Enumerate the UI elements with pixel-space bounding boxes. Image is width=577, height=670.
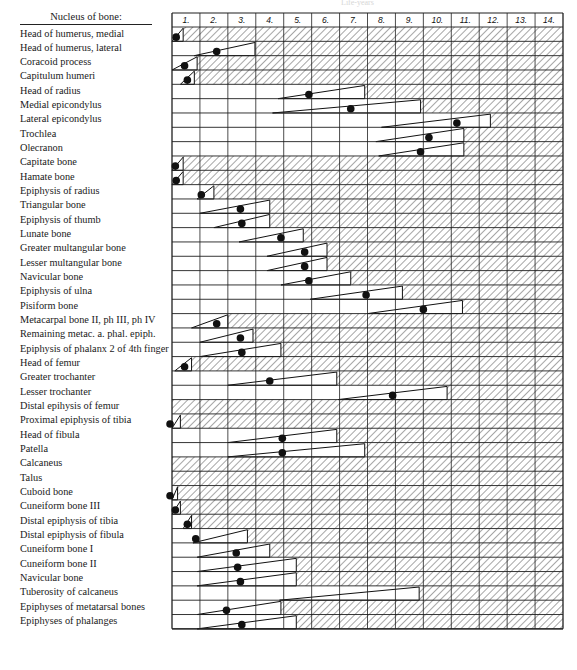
present-hatch: [178, 486, 563, 500]
mean-dot: [234, 564, 242, 572]
present-hatch: [327, 256, 563, 270]
appearance-wedge: [280, 587, 420, 600]
mean-dot: [166, 492, 174, 500]
appearance-wedge: [376, 128, 464, 141]
mean-dot: [198, 191, 206, 199]
year-column-header: 8.: [378, 15, 385, 25]
present-hatch: [464, 127, 563, 141]
appearance-wedge: [281, 272, 351, 285]
year-column-header: 11.: [460, 15, 471, 25]
mean-dot: [184, 521, 192, 529]
appearance-wedge: [267, 243, 327, 256]
appearance-wedge: [200, 329, 253, 342]
year-column-header: 14.: [543, 15, 555, 25]
present-hatch: [464, 142, 563, 156]
appearance-wedge: [197, 558, 296, 571]
appearance-wedge: [200, 200, 270, 213]
mean-dot: [181, 363, 189, 371]
present-hatch: [255, 41, 563, 55]
present-hatch: [180, 500, 563, 514]
mean-dot: [266, 377, 274, 385]
present-hatch: [270, 199, 563, 213]
present-hatch: [197, 56, 563, 70]
present-hatch: [365, 443, 563, 457]
mean-dot: [238, 349, 246, 357]
mean-dot: [305, 91, 313, 99]
present-hatch: [183, 156, 563, 170]
year-column-header: 1.: [182, 15, 189, 25]
mean-dot: [237, 578, 245, 586]
mean-dot: [232, 549, 240, 557]
mean-dot: [213, 48, 221, 56]
year-column-header: 4.: [266, 15, 273, 25]
present-hatch: [296, 557, 563, 571]
mean-dot: [301, 263, 309, 271]
appearance-wedge: [197, 601, 281, 614]
mean-dot: [425, 134, 433, 142]
mean-dot: [453, 119, 461, 127]
appearance-wedge: [273, 100, 421, 113]
ossification-chart: 1.2.3.4.5.6.7.8.9.10.11.12.13.14.: [0, 0, 577, 670]
present-hatch: [270, 213, 563, 227]
mean-dot: [347, 105, 355, 113]
year-column-header: 6.: [322, 15, 329, 25]
year-column-header: 3.: [238, 15, 245, 25]
year-column-header: 10.: [431, 15, 443, 25]
present-hatch: [402, 285, 563, 299]
present-hatch: [183, 27, 563, 41]
mean-dot: [305, 277, 313, 285]
present-hatch: [421, 99, 563, 113]
mean-dot: [420, 306, 428, 314]
mean-dot: [362, 291, 370, 299]
present-hatch: [337, 371, 563, 385]
mean-dot: [181, 62, 189, 70]
present-hatch: [303, 228, 563, 242]
present-hatch: [247, 529, 563, 543]
present-hatch: [419, 586, 563, 600]
year-column-header: 12.: [487, 15, 499, 25]
present-hatch: [296, 615, 563, 629]
present-hatch: [351, 271, 563, 285]
mean-dot: [237, 334, 245, 342]
year-header-row: 1.2.3.4.5.6.7.8.9.10.11.12.13.14.: [182, 15, 555, 25]
present-hatch: [270, 543, 563, 557]
present-hatch: [327, 242, 563, 256]
year-column-header: 9.: [406, 15, 413, 25]
present-hatch: [180, 414, 563, 428]
year-column-header: 13.: [515, 15, 527, 25]
appearance-wedge: [197, 616, 296, 629]
mean-dot: [166, 420, 174, 428]
present-hatch: [365, 84, 563, 98]
year-column-header: 2.: [209, 15, 217, 25]
mean-dot: [238, 220, 246, 228]
year-column-header: 5.: [294, 15, 301, 25]
appearance-wedge: [239, 229, 303, 242]
present-hatch: [281, 342, 563, 356]
mean-dot: [192, 535, 200, 543]
appearance-wedge: [172, 415, 180, 428]
appearance-wedge: [193, 530, 247, 543]
mean-dot: [301, 248, 309, 256]
present-hatch: [462, 299, 563, 313]
mean-dot: [277, 234, 285, 242]
present-hatch: [447, 385, 563, 399]
mean-dot: [279, 449, 287, 457]
appearance-wedge: [381, 114, 490, 127]
present-hatch: [214, 185, 563, 199]
present-hatch: [253, 328, 563, 342]
present-hatch: [490, 113, 563, 127]
appearance-wedge: [194, 42, 255, 55]
mean-dot: [237, 205, 245, 213]
mean-dot: [417, 148, 425, 156]
appearance-wedge: [228, 372, 337, 385]
mean-dot: [184, 76, 192, 84]
appearance-wedge: [278, 85, 365, 98]
mean-dot: [238, 621, 246, 629]
appearance-wedge: [197, 573, 296, 586]
year-column-header: 7.: [350, 15, 357, 25]
mean-dot: [172, 177, 180, 185]
mean-dot: [389, 392, 397, 400]
appearance-wedge: [310, 286, 402, 299]
mean-dot: [279, 435, 287, 443]
mean-dot: [172, 162, 180, 170]
